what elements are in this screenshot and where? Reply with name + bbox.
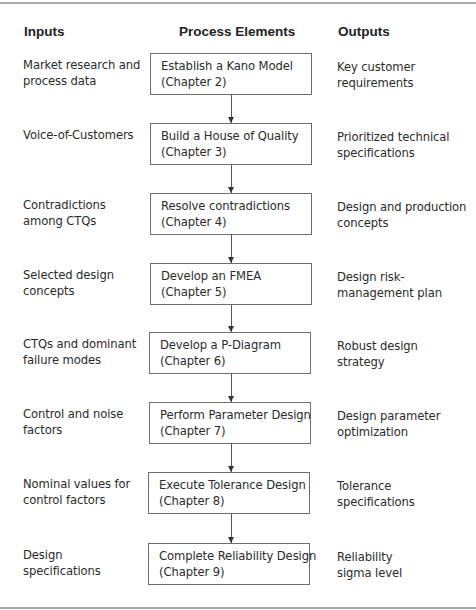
top-rule xyxy=(0,2,476,4)
output-text: Reliability xyxy=(337,549,393,565)
input-text: Control and noise xyxy=(23,406,123,422)
chapter-label: (Chapter 6) xyxy=(160,353,310,369)
process-box: Build a House of Quality(Chapter 3) xyxy=(150,123,312,165)
chapter-label: (Chapter 3) xyxy=(161,144,311,160)
chapter-label: (Chapter 2) xyxy=(161,74,311,90)
flow-arrow-icon xyxy=(231,95,232,123)
flow-arrow-icon xyxy=(231,235,232,263)
process-label: Build a House of Quality xyxy=(161,128,311,144)
output-text: Robust design xyxy=(337,338,418,354)
input-text: control factors xyxy=(23,492,105,508)
process-label: Complete Reliability Design xyxy=(159,548,309,564)
flow-arrow-icon xyxy=(231,305,232,332)
input-text: specifications xyxy=(23,563,101,579)
input-text: Voice-of-Customers xyxy=(23,127,134,143)
process-box: Develop an FMEA(Chapter 5) xyxy=(150,263,312,305)
process-label: Resolve contradictions xyxy=(161,198,311,214)
process-box: Develop a P-Diagram(Chapter 6) xyxy=(149,332,311,374)
output-text: sigma level xyxy=(337,565,402,581)
output-text: strategy xyxy=(337,354,385,370)
input-text: concepts xyxy=(23,283,74,299)
chapter-label: (Chapter 5) xyxy=(161,284,311,300)
output-text: management plan xyxy=(337,285,442,301)
chapter-label: (Chapter 7) xyxy=(160,423,310,439)
output-text: concepts xyxy=(337,215,388,231)
output-text: Prioritized technical xyxy=(337,129,449,145)
process-label: Establish a Kano Model xyxy=(161,58,311,74)
flow-arrow-icon xyxy=(231,444,232,472)
input-text: CTQs and dominant xyxy=(23,336,136,352)
input-text: Contradictions xyxy=(23,197,106,213)
process-box: Resolve contradictions(Chapter 4) xyxy=(150,193,312,235)
input-text: among CTQs xyxy=(23,213,96,229)
output-text: specifications xyxy=(337,145,415,161)
process-box: Establish a Kano Model(Chapter 2) xyxy=(150,53,312,95)
process-box: Complete Reliability Design(Chapter 9) xyxy=(148,543,310,585)
input-text: Selected design xyxy=(23,267,114,283)
process-label: Develop a P-Diagram xyxy=(160,337,310,353)
input-text: Design xyxy=(23,547,62,563)
chapter-label: (Chapter 8) xyxy=(159,493,309,509)
bottom-rule xyxy=(0,607,476,609)
flow-arrow-icon xyxy=(231,514,232,543)
process-elements-header: Process Elements xyxy=(179,24,295,39)
flow-arrow-icon xyxy=(231,165,232,193)
output-text: Design and production xyxy=(337,199,466,215)
output-text: Tolerance xyxy=(337,478,391,494)
output-text: Design risk- xyxy=(337,269,404,285)
chapter-label: (Chapter 4) xyxy=(161,214,311,230)
input-text: process data xyxy=(23,73,96,89)
process-label: Execute Tolerance Design xyxy=(159,477,309,493)
process-label: Develop an FMEA xyxy=(161,268,311,284)
output-text: optimization xyxy=(337,424,408,440)
inputs-header: Inputs xyxy=(24,24,65,39)
process-box: Execute Tolerance Design(Chapter 8) xyxy=(148,472,310,514)
process-box: Perform Parameter Design(Chapter 7) xyxy=(149,402,311,444)
output-text: Key customer xyxy=(337,59,415,75)
output-text: specifications xyxy=(337,494,415,510)
flow-arrow-icon xyxy=(231,374,232,402)
outputs-header: Outputs xyxy=(338,24,390,39)
input-text: failure modes xyxy=(23,352,101,368)
process-label: Perform Parameter Design xyxy=(160,407,310,423)
input-text: factors xyxy=(23,422,62,438)
output-text: requirements xyxy=(337,75,413,91)
input-text: Market research and xyxy=(23,57,140,73)
input-text: Nominal values for xyxy=(23,476,130,492)
chapter-label: (Chapter 9) xyxy=(159,564,309,580)
output-text: Design parameter xyxy=(337,408,440,424)
